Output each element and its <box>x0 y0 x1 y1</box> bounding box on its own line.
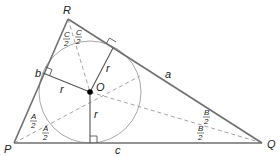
radius-label-lower: r <box>94 108 99 120</box>
radius-label-left: r <box>60 83 65 95</box>
svg-text:C: C <box>64 30 70 39</box>
svg-text:B: B <box>204 108 210 117</box>
half-angle-a-upper: A 2 <box>30 112 37 130</box>
svg-text:A: A <box>30 112 36 121</box>
radius-to-b <box>43 73 90 92</box>
svg-text:2: 2 <box>197 133 203 142</box>
right-angle-marker-a <box>106 38 116 44</box>
svg-text:2: 2 <box>30 121 36 130</box>
side-label-c: c <box>115 144 121 156</box>
center-point-o <box>87 89 93 95</box>
side-b <box>14 19 68 143</box>
bisector-q <box>90 92 262 143</box>
vertex-label-r: R <box>63 4 71 16</box>
svg-text:2: 2 <box>203 117 209 126</box>
half-angle-a-lower: A 2 <box>42 124 49 142</box>
incircle-diagram: R P Q O a b c r r r C 2 C 2 A 2 A 2 B 2 … <box>0 0 280 157</box>
svg-text:A: A <box>42 124 48 133</box>
svg-text:2: 2 <box>63 39 69 48</box>
half-angle-b-upper: B 2 <box>203 108 210 126</box>
right-angle-marker-c <box>90 136 97 143</box>
vertex-label-q: Q <box>267 138 276 150</box>
svg-text:B: B <box>198 124 204 133</box>
vertex-label-p: P <box>4 143 12 155</box>
radius-label-upper: r <box>106 62 111 74</box>
side-label-b: b <box>35 67 41 79</box>
svg-text:2: 2 <box>42 133 48 142</box>
svg-text:2: 2 <box>75 37 81 46</box>
half-angle-c-right: C 2 <box>75 28 82 46</box>
half-angle-b-lower: B 2 <box>197 124 204 142</box>
side-label-a: a <box>165 68 171 80</box>
svg-text:C: C <box>76 28 82 37</box>
center-label-o: O <box>96 81 105 93</box>
